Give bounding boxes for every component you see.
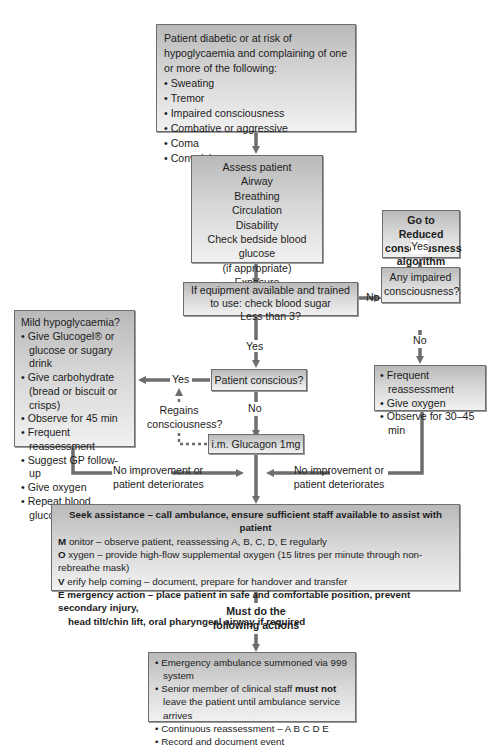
assess-line: Disability [194,218,320,232]
mnemonic-text: onitor – observe patient, reassessing A,… [66,536,327,547]
list-item: Sweating [164,76,348,91]
verify-line: V erify help coming – document, prepare … [58,575,453,588]
reassess-oxygen-box: Frequent reassessment Give oxygen Observ… [374,365,486,411]
must-line: Must do the [206,605,306,619]
symptom-list: Sweating Tremor Impaired consciousness C… [164,76,348,166]
list-item: Coma [164,136,348,151]
regains-consciousness-label: Regains consciousness? [147,404,211,432]
list-item: Give oxygen [380,397,480,411]
equipment-line: Less than 3? [186,310,355,323]
equipment-line: to use: check blood sugar [186,297,355,310]
mild-actions-list: Give Glucogel® or glucose or sugary drin… [21,330,128,523]
no-impaired-label: No [413,334,427,348]
item-text: leave the patient until ambulance servic… [163,696,340,720]
item-text: Senior member of clinical staff [161,683,295,694]
yes-reduced-label: Yes [411,240,428,254]
conscious-label: Patient conscious? [215,374,304,386]
assess-line: Assess patient [194,160,320,174]
regains-line: consciousness? [147,418,211,432]
list-item: Combative or aggressive [164,121,348,136]
must-line: following actions [206,619,306,633]
mnemonic-letter: O [58,549,66,560]
assess-line: Breathing [194,189,320,203]
no-equipment-label: No [366,291,380,305]
monitor-line: M onitor – observe patient, reassessing … [58,535,453,548]
list-item: Suggest GP follow-up [21,454,128,482]
reassess-list: Frequent reassessment Give oxygen Observ… [380,369,480,438]
noimp-line: No improvement or [113,464,201,478]
list-item: Frequent reassessment [21,426,128,454]
list-item: Record and document event [155,735,349,748]
patient-conscious-box: Patient conscious? [211,369,307,391]
assess-line: Circulation [194,203,320,217]
reduced-line: Go to Reduced [385,214,457,242]
assess-line: Airway [194,174,320,188]
list-item: Tremor [164,91,348,106]
assess-line: (if appropriate) [194,261,320,275]
assess-line: Check bedside blood glucose [194,232,320,261]
list-item: Emergency ambulance summoned via 999 sys… [155,656,349,682]
list-item: Impaired consciousness [164,106,348,121]
final-actions-list: Emergency ambulance summoned via 999 sys… [155,656,349,748]
noimp-line: patient deteriorates [113,478,201,492]
impaired-line: Any impaired [384,271,457,285]
yes-equipment-label: Yes [246,340,263,354]
equipment-line: If equipment available and trained [186,284,355,297]
mild-title: Mild hypoglycaemia? [21,316,128,330]
must-do-label: Must do the following actions [206,605,306,633]
noimp-line: No improvement or [290,464,388,478]
list-item: Give Glucogel® or glucose or sugary drin… [21,330,128,371]
regains-line: Regains [147,404,211,418]
start-symptoms-box: Patient diabetic or at risk of hypoglyca… [156,24,356,132]
assess-patient-box: Assess patient Airway Breathing Circulat… [191,155,323,263]
list-item: Observe for 30–45 min [380,410,480,438]
mnemonic-letter: M [58,536,66,547]
noimp-line: patient deteriorates [290,478,388,492]
seek-heading: Seek assistance – call ambulance, ensure… [58,508,453,535]
mild-hypoglycaemia-box: Mild hypoglycaemia? Give Glucogel® or gl… [14,310,135,447]
mnemonic-text: xygen – provide high-flow supplemental o… [58,549,422,573]
item-emphasis: must not [295,683,336,694]
equipment-check-box: If equipment available and trained to us… [183,282,358,316]
glucagon-label: i.m. Glucagon 1mg [212,438,301,450]
list-item: Give oxygen [21,481,128,495]
list-item: Continuous reassessment – A B C D E [155,722,349,735]
oxygen-line: O xygen – provide high-flow supplemental… [58,548,453,575]
seek-assistance-box: Seek assistance – call ambulance, ensure… [51,504,460,591]
list-item: Senior member of clinical staff must not… [155,682,349,721]
list-item: Frequent reassessment [380,369,480,397]
no-improvement-left-label: No improvement or patient deteriorates [113,464,201,492]
list-item: Give carbohydrate (bread or biscuit or c… [21,371,128,412]
no-improvement-right-label: No improvement or patient deteriorates [290,464,388,492]
yes-conscious-label: Yes [172,373,189,387]
impaired-consciousness-box: Any impaired consciousness? [381,267,460,303]
final-actions-box: Emergency ambulance summoned via 999 sys… [148,652,356,722]
no-conscious-label: No [248,402,262,416]
start-intro: Patient diabetic or at risk of hypoglyca… [164,31,348,76]
impaired-line: consciousness? [384,285,457,299]
list-item: Observe for 45 min [21,412,128,426]
mnemonic-text: erify help coming – document, prepare fo… [65,576,348,587]
glucagon-box: i.m. Glucagon 1mg [208,434,304,454]
